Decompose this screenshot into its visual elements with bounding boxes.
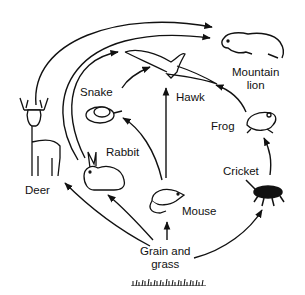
label-mountain-lion: Mountain lion	[232, 66, 279, 92]
food-web-diagram: Mountain lion Hawk Snake Frog Deer Rabbi…	[0, 0, 305, 295]
label-deer: Deer	[25, 184, 50, 197]
label-snake: Snake	[80, 86, 113, 99]
label-frog: Frog	[211, 120, 235, 133]
grass-icon	[131, 272, 206, 290]
label-hawk: Hawk	[176, 91, 205, 104]
mountain-lion-icon	[218, 28, 288, 64]
frog-icon	[243, 107, 279, 139]
label-cricket: Cricket	[223, 165, 259, 178]
hawk-icon	[123, 44, 218, 88]
label-grain-and-grass: Grain and grass	[140, 245, 191, 271]
deer-icon	[14, 96, 66, 182]
rabbit-icon	[80, 150, 130, 196]
cricket-icon	[244, 178, 288, 212]
label-mouse: Mouse	[182, 205, 217, 218]
snake-icon	[84, 101, 124, 129]
arrow-cricket-to-frog	[264, 138, 271, 175]
